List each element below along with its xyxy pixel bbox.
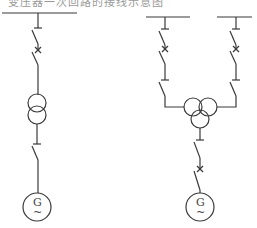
generator-ac-symbol: ~ xyxy=(196,206,205,219)
circuit-breaker-icon xyxy=(194,166,203,190)
generator-icon: G ~ xyxy=(23,193,51,221)
generator-ac-symbol: ~ xyxy=(33,206,42,219)
circuit-breaker-icon xyxy=(32,47,41,65)
circuit-breaker-icon xyxy=(230,46,239,64)
circuit-breaker-icon xyxy=(159,46,168,64)
disconnector-icon xyxy=(230,31,236,45)
two-winding-transformer-icon xyxy=(28,94,46,124)
three-winding-transformer-icon xyxy=(184,98,217,128)
disconnector-icon xyxy=(194,142,200,158)
disconnector-icon xyxy=(230,82,236,96)
disconnector-icon xyxy=(32,146,38,160)
disconnector-icon xyxy=(159,82,165,96)
disconnector-icon xyxy=(159,31,165,45)
single-line-diagram: G ~ xyxy=(0,0,257,228)
right-circuit: G ~ xyxy=(146,17,252,221)
disconnector-icon xyxy=(32,30,38,44)
generator-icon: G ~ xyxy=(186,193,214,221)
left-circuit: G ~ xyxy=(2,13,77,221)
